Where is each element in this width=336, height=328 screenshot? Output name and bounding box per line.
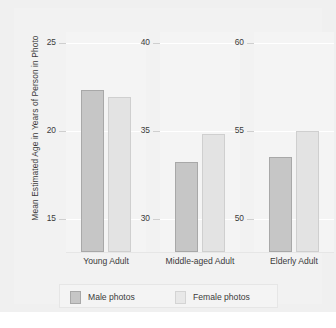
axis-tick-mark	[247, 219, 254, 220]
axis-tick-label: 55	[220, 125, 244, 135]
bar-female	[202, 134, 225, 252]
gridline	[254, 131, 334, 132]
gridline	[254, 43, 334, 44]
axis-tick-label: 25	[32, 37, 56, 47]
legend-swatch-female-icon	[175, 291, 186, 304]
axis-tick-label: 50	[220, 213, 244, 223]
axis-tick-mark	[247, 43, 254, 44]
chart-figure-inner: Mean Estimated Age in Years of Person in…	[14, 8, 322, 304]
axis-tick-mark	[153, 43, 160, 44]
legend-item-female[interactable]: Female photos	[175, 289, 250, 305]
chart-figure: Mean Estimated Age in Years of Person in…	[0, 0, 336, 312]
axis-tick-label: 35	[126, 125, 150, 135]
bar-male	[81, 90, 104, 252]
legend-swatch-male-icon	[70, 291, 81, 304]
bar-female	[296, 131, 319, 252]
bar-male	[269, 157, 292, 252]
axis-tick-label: 60	[220, 37, 244, 47]
axis-tick-mark	[59, 43, 66, 44]
axis-tick-label: 40	[126, 37, 150, 47]
axis-tick-label: 15	[32, 213, 56, 223]
axis-tick-mark	[59, 219, 66, 220]
bar-female	[108, 97, 131, 252]
legend-item-male[interactable]: Male photos	[70, 289, 135, 305]
bar-male	[175, 162, 198, 252]
axis-tick-label: 20	[32, 125, 56, 135]
x-axis-baseline	[66, 252, 334, 253]
axis-tick-mark	[247, 131, 254, 132]
axis-tick-label: 30	[126, 213, 150, 223]
legend-label: Male photos	[88, 292, 135, 302]
chart-panel	[254, 32, 334, 252]
axis-tick-mark	[153, 131, 160, 132]
x-axis-category-label: Elderly Adult	[229, 256, 336, 266]
gridline	[254, 219, 334, 220]
chart-legend: Male photosFemale photos	[59, 284, 278, 308]
plot-area: 252015403530605550	[66, 32, 334, 252]
axis-tick-mark	[59, 131, 66, 132]
legend-label: Female photos	[193, 292, 250, 302]
axis-tick-mark	[153, 219, 160, 220]
